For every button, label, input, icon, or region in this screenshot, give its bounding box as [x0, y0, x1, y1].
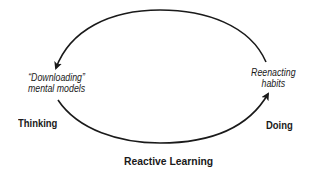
left-node-line2: mental models — [28, 83, 85, 94]
left-node-label: “Downloading” mental models — [28, 72, 85, 94]
right-node-label: Reenacting habits — [251, 67, 296, 89]
diagram-title: Reactive Learning — [124, 155, 213, 167]
left-node-line1: “Downloading” — [28, 72, 85, 83]
bottom-arc-arrow — [58, 94, 268, 143]
right-node-line1: Reenacting — [251, 67, 296, 78]
thinking-label: Thinking — [18, 117, 57, 129]
top-arc-arrow — [56, 10, 266, 68]
doing-label: Doing — [266, 119, 293, 131]
reactive-learning-cycle-diagram: “Downloading” mental models Reenacting h… — [0, 0, 312, 173]
right-node-line2: habits — [251, 78, 296, 89]
